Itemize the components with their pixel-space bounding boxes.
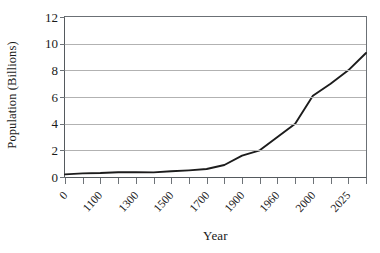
x-axis-tick-labels: 011001300150017001900196020002025 [0,0,380,253]
x-axis-title: Year [64,228,367,244]
population-line-chart: Population (Billions) 121086420 01100130… [0,0,380,253]
